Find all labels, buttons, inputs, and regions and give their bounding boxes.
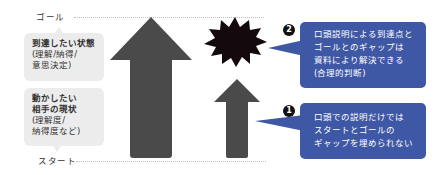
note-2-badge: 2 [283,24,295,36]
note-1-line-1: 口頭での説明だけでは [314,111,416,124]
note-2-box: 口頭説明による到達点と ゴールとのギャップは 資料により解決できる (合理的判断… [300,22,426,88]
note-2-connector [268,40,304,56]
note-1-line-3: ギャップを埋められない [314,137,416,150]
large-arrow-icon [110,17,192,158]
note-2-line-1: 口頭説明による到達点と [314,28,416,41]
note-1-line-2: スタートとゴールの [314,124,416,137]
small-arrow-icon [214,79,260,158]
note-2-line-4: (合理的判断) [314,67,416,80]
note-1-badge: 1 [283,105,295,117]
note-2-line-2: ゴールとのギャップは [314,41,416,54]
note-1-connector [255,115,304,131]
gap-burst-icon [204,17,267,67]
note-1-box: 口頭での説明だけでは スタートとゴールの ギャップを埋められない [300,103,426,159]
note-2-line-3: 資料により解決できる [314,54,416,67]
